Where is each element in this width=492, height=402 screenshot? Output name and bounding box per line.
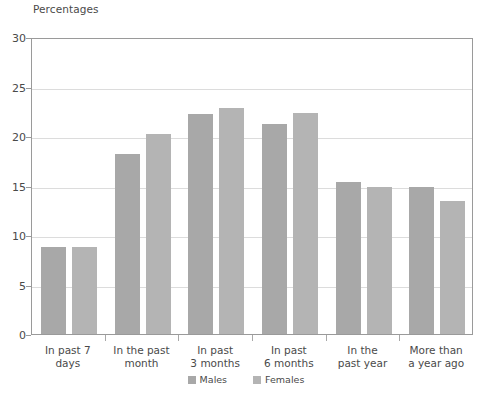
x-axis-label-line: 3 months	[178, 357, 252, 370]
gridline	[32, 237, 472, 238]
bar-males-2	[188, 114, 213, 334]
x-axis-category-label: More thana year ago	[399, 344, 473, 370]
legend-item-females[interactable]: Females	[253, 375, 304, 385]
y-axis-tick-label: 0	[2, 330, 26, 341]
x-axis-label-line: past year	[326, 357, 400, 370]
category-separator-tick	[399, 335, 400, 341]
bar-females-5	[440, 201, 465, 334]
legend-item-males[interactable]: Males	[188, 375, 227, 385]
y-axis-tick-label: 25	[2, 82, 26, 93]
category-separator-tick	[178, 335, 179, 341]
legend-label: Females	[265, 375, 304, 385]
y-axis-tick-label: 15	[2, 181, 26, 192]
x-axis-label-line: In the past	[105, 344, 179, 357]
bar-females-3	[293, 113, 318, 334]
category-separator-tick	[252, 335, 253, 341]
gridline	[32, 188, 472, 189]
bar-females-4	[367, 187, 392, 335]
chart-title: Percentages	[33, 3, 99, 15]
bar-males-5	[409, 187, 434, 335]
bar-males-1	[115, 154, 140, 334]
x-axis-label-line: In past 7 days	[31, 344, 105, 370]
x-axis-category-label: In the pastmonth	[105, 344, 179, 370]
y-axis-labels: 302520151050	[0, 38, 26, 335]
y-axis-tick-label: 5	[2, 280, 26, 291]
bar-males-3	[262, 124, 287, 334]
x-axis-category-label: In past6 months	[252, 344, 326, 370]
bar-females-1	[146, 134, 171, 334]
gridline	[32, 138, 472, 139]
y-axis-tick-label: 30	[2, 33, 26, 44]
bar-males-4	[336, 182, 361, 334]
legend-swatch-icon	[253, 376, 261, 384]
x-axis-label-line: a year ago	[399, 357, 473, 370]
plot-area	[31, 38, 473, 335]
y-axis-tick-label: 20	[2, 132, 26, 143]
x-axis-label-line: 6 months	[252, 357, 326, 370]
category-separator-tick	[326, 335, 327, 341]
x-axis-label-line: In past	[252, 344, 326, 357]
chart-legend: MalesFemales	[0, 375, 492, 385]
bar-males-0	[41, 247, 66, 334]
bar-females-2	[219, 108, 244, 334]
gridline	[32, 89, 472, 90]
x-axis-category-label: In thepast year	[326, 344, 400, 370]
x-axis-label-line: More than	[399, 344, 473, 357]
x-axis-label-line: In the	[326, 344, 400, 357]
category-separator-ticks	[31, 335, 473, 341]
bar-chart: Percentages 302520151050 In past 7 daysI…	[0, 0, 492, 402]
category-separator-tick	[105, 335, 106, 341]
legend-swatch-icon	[188, 376, 196, 384]
x-axis-category-label: In past3 months	[178, 344, 252, 370]
x-axis-label-line: In past	[178, 344, 252, 357]
legend-label: Males	[200, 375, 227, 385]
y-axis-tick-label: 10	[2, 231, 26, 242]
gridline	[32, 287, 472, 288]
x-axis-labels: In past 7 daysIn the pastmonthIn past3 m…	[31, 344, 473, 374]
x-axis-label-line: month	[105, 357, 179, 370]
x-axis-category-label: In past 7 days	[31, 344, 105, 370]
bar-females-0	[72, 247, 97, 334]
